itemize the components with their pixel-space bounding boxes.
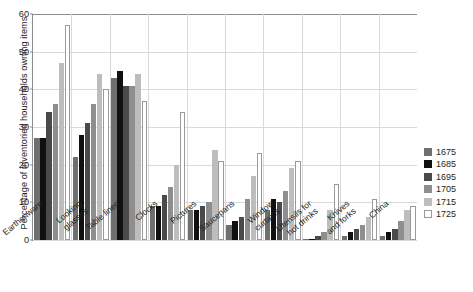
legend-swatch — [424, 148, 432, 156]
x-label-cell: Table linen — [109, 242, 147, 292]
legend-item[interactable]: 1695 — [424, 172, 456, 182]
bar — [410, 206, 415, 240]
bar — [380, 236, 385, 240]
bar — [123, 86, 128, 240]
x-label-cell: China — [378, 242, 416, 292]
legend-item[interactable]: 1725 — [424, 209, 456, 219]
y-tick-label-40: 40 — [19, 84, 29, 94]
bar — [398, 221, 403, 240]
legend-label: 1715 — [436, 197, 456, 207]
bar — [212, 150, 217, 240]
legend-item[interactable]: 1675 — [424, 147, 456, 157]
bar — [111, 78, 116, 240]
bar — [174, 165, 179, 240]
bar — [392, 229, 397, 240]
legend-item[interactable]: 1715 — [424, 197, 456, 207]
y-tick-label-50: 50 — [19, 47, 29, 57]
legend-swatch — [424, 185, 432, 193]
legend-label: 1695 — [436, 172, 456, 182]
legend: 167516851695170517151725 — [424, 147, 456, 219]
x-label-cell: Looking glasses — [70, 242, 108, 292]
bar — [117, 71, 122, 241]
x-axis-labels: EarthenwareLooking glassesTable linenClo… — [32, 242, 416, 292]
bar — [404, 210, 409, 240]
legend-swatch — [424, 173, 432, 181]
y-tick-label-30: 30 — [19, 122, 29, 132]
bar — [386, 232, 391, 240]
x-label-cell: Clocks — [147, 242, 185, 292]
bar — [34, 138, 39, 240]
legend-label: 1725 — [436, 209, 456, 219]
legend-item[interactable]: 1705 — [424, 184, 456, 194]
legend-item[interactable]: 1685 — [424, 159, 456, 169]
legend-label: 1675 — [436, 147, 456, 157]
legend-label: 1705 — [436, 184, 456, 194]
x-label-cell: Knives and forks — [339, 242, 377, 292]
legend-label: 1685 — [436, 159, 456, 169]
x-label-cell: Pictures — [186, 242, 224, 292]
bar — [218, 161, 223, 240]
legend-swatch — [424, 210, 432, 218]
y-tick-label-60: 60 — [19, 9, 29, 19]
legend-swatch — [424, 198, 432, 206]
y-tick-label-20: 20 — [19, 160, 29, 170]
legend-swatch — [424, 160, 432, 168]
bar-chart: Percentage of inventoried households own… — [0, 0, 473, 292]
